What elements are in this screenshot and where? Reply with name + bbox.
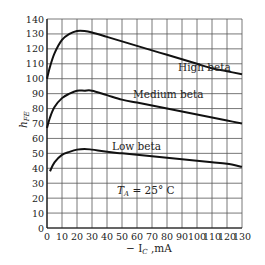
series-label-medium-beta: Medium beta: [133, 88, 204, 100]
hfe-vs-ic-chart: 0102030405060708090100110120130140 01020…: [0, 0, 265, 265]
y-tick-label: 90: [32, 88, 44, 99]
x-tick-label: 40: [101, 231, 113, 242]
x-axis-label: − IC ,mA: [126, 242, 172, 256]
y-tick-label: 120: [26, 43, 44, 54]
y-tick-label: 30: [32, 178, 44, 189]
grid: [47, 19, 242, 228]
series-label-low-beta: Low beta: [112, 140, 161, 152]
x-tick-label: 20: [71, 231, 83, 242]
x-tick-label: 50: [116, 231, 128, 242]
x-tick-label: 0: [44, 231, 50, 242]
y-tick-label: 130: [26, 28, 44, 39]
y-tick-label: 80: [32, 103, 44, 114]
x-tick-label: 80: [161, 231, 173, 242]
y-tick-label: 110: [26, 58, 44, 69]
y-tick-label: 20: [32, 193, 44, 204]
y-tick-label: 100: [26, 73, 44, 84]
series-label-high-beta: High beta: [178, 61, 231, 73]
x-tick-label: 130: [233, 231, 251, 242]
x-tick-label: 60: [131, 231, 143, 242]
y-tick-label: 140: [26, 14, 44, 25]
y-tick-label: 70: [32, 118, 44, 129]
x-tick-label: 10: [56, 231, 68, 242]
y-tick-label: 60: [32, 133, 44, 144]
y-axis-label: hFE: [17, 111, 31, 128]
x-tick-label: 30: [86, 231, 98, 242]
y-tick-label: 40: [32, 163, 44, 174]
y-tick-label: 10: [32, 208, 44, 219]
x-tick-labels: 0102030405060708090100110120130: [44, 231, 251, 242]
y-tick-label: 50: [32, 148, 44, 159]
x-tick-label: 90: [176, 231, 188, 242]
annotation-temperature: TA = 25° C: [117, 184, 175, 198]
x-tick-label: 70: [146, 231, 158, 242]
